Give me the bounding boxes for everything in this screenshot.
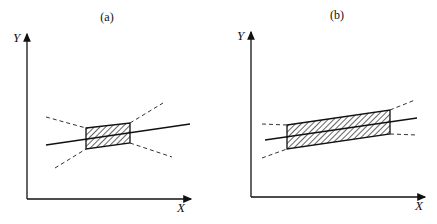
diagram-canvas: (a) Y X (b) Y X [0,0,437,224]
panel-a-title: (a) [100,10,113,24]
x-axis-label: X [414,198,424,213]
y-axis-label: Y [13,30,22,45]
y-axis-label: Y [237,28,246,43]
panel-b: (b) Y X [237,8,425,213]
x-axis-label: X [176,200,186,215]
panel-b-title: (b) [330,8,344,22]
panel-a: (a) Y X [13,10,191,215]
